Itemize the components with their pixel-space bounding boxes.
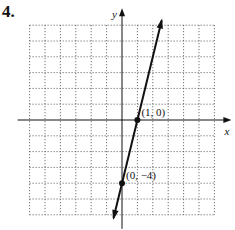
coordinate-plane: xy(1, 0)(0, −4) <box>0 0 235 230</box>
data-point <box>119 180 125 186</box>
point-label: (0, −4) <box>126 169 156 182</box>
x-axis-label: x <box>223 125 229 137</box>
line-arrow-down-icon <box>112 209 118 219</box>
x-axis-arrow-icon <box>223 117 231 123</box>
point-label: (1, 0) <box>141 106 165 119</box>
y-axis-arrow-icon <box>119 8 125 16</box>
data-point <box>134 117 140 123</box>
line-arrow-up-icon <box>157 19 163 29</box>
y-axis-label: y <box>111 8 117 20</box>
